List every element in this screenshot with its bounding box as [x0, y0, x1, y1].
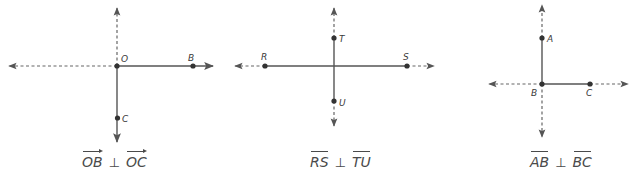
perpendicular-symbol: ⊥ — [555, 155, 566, 170]
point-a — [539, 35, 544, 40]
point-b — [190, 63, 195, 68]
diagram-rays-ob-oc: O B C — [9, 8, 213, 142]
label-b: B — [531, 88, 537, 98]
label-r: R — [261, 52, 267, 62]
point-o — [114, 63, 119, 68]
segment-notation-ab: AB — [530, 149, 549, 170]
label-s: S — [403, 52, 409, 62]
point-t — [331, 35, 336, 40]
label-c: C — [586, 88, 593, 98]
perpendicular-symbol: ⊥ — [335, 155, 346, 170]
point-r — [262, 63, 267, 68]
ray-notation-oc: OC — [126, 149, 147, 170]
label-a: A — [546, 34, 553, 44]
segment-notation-tu: TU — [352, 149, 371, 170]
perpendicular-symbol: ⊥ — [109, 155, 120, 170]
segment-notation-rs: RS — [310, 149, 329, 170]
label-u: U — [339, 98, 346, 108]
diagram-segments-rs-tu: R S T U — [235, 8, 434, 126]
point-c — [587, 81, 592, 86]
point-b — [539, 81, 544, 86]
ray-notation-ob: OB — [82, 149, 103, 170]
label-c: C — [122, 114, 129, 124]
caption-ab-perp-bc: AB ⊥ BC — [530, 149, 592, 170]
caption-ob-perp-oc: OB ⊥ OC — [82, 149, 147, 170]
caption-rs-perp-tu: RS ⊥ TU — [310, 149, 371, 170]
segment-notation-bc: BC — [573, 149, 592, 170]
point-s — [404, 63, 409, 68]
diagram-segments-ab-bc: A B C — [489, 5, 628, 137]
label-b: B — [188, 53, 194, 63]
point-c — [115, 115, 120, 120]
point-u — [331, 98, 336, 103]
label-o: O — [121, 54, 128, 64]
label-t: T — [339, 34, 346, 44]
